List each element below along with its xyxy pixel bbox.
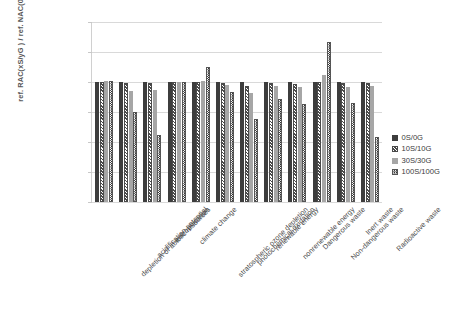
bar-10S-10G[interactable] bbox=[317, 82, 321, 202]
bar-100S-100G[interactable] bbox=[375, 137, 379, 202]
legend-swatch-icon bbox=[392, 146, 398, 152]
bar-10S-10G[interactable] bbox=[245, 86, 249, 202]
legend-item[interactable]: 100S/100G bbox=[392, 167, 440, 179]
bar-30S-30G[interactable] bbox=[370, 86, 374, 202]
bar-100S-100G[interactable] bbox=[157, 135, 161, 202]
bar-100S-100G[interactable] bbox=[109, 81, 113, 202]
bar-group bbox=[237, 22, 261, 202]
bar-0S-0G[interactable] bbox=[95, 82, 99, 202]
bar-30S-30G[interactable] bbox=[249, 93, 253, 202]
bar-30S-30G[interactable] bbox=[225, 85, 229, 202]
bar-0S-0G[interactable] bbox=[240, 82, 244, 202]
gridline bbox=[92, 202, 382, 203]
legend-label: 10S/10G bbox=[402, 145, 432, 153]
bar-group bbox=[165, 22, 189, 202]
bar-10S-10G[interactable] bbox=[221, 83, 225, 202]
bar-100S-100G[interactable] bbox=[327, 42, 331, 202]
bar-30S-30G[interactable] bbox=[129, 91, 133, 202]
bar-30S-30G[interactable] bbox=[322, 75, 326, 202]
bar-group bbox=[334, 22, 358, 202]
bar-0S-0G[interactable] bbox=[216, 82, 220, 202]
legend-label: 100S/100G bbox=[402, 168, 440, 176]
bar-10S-10G[interactable] bbox=[293, 84, 297, 202]
plot-area: 1,101,051,000,950,900,850,80 bbox=[92, 22, 382, 202]
legend-item[interactable]: 0S/0G bbox=[392, 132, 440, 144]
bar-0S-0G[interactable] bbox=[168, 82, 172, 202]
bar-30S-30G[interactable] bbox=[153, 90, 157, 202]
bar-30S-30G[interactable] bbox=[177, 82, 181, 202]
legend-item[interactable]: 10S/10G bbox=[392, 144, 440, 156]
bar-10S-10G[interactable] bbox=[196, 82, 200, 202]
bar-0S-0G[interactable] bbox=[119, 82, 123, 202]
bar-0S-0G[interactable] bbox=[337, 82, 341, 202]
bar-10S-10G[interactable] bbox=[341, 83, 345, 202]
bar-group bbox=[140, 22, 164, 202]
bar-group bbox=[213, 22, 237, 202]
bar-30S-30G[interactable] bbox=[346, 87, 350, 202]
bar-0S-0G[interactable] bbox=[264, 82, 268, 202]
bar-100S-100G[interactable] bbox=[133, 112, 137, 202]
bar-group bbox=[358, 22, 382, 202]
bar-10S-10G[interactable] bbox=[100, 82, 104, 202]
bar-100S-100G[interactable] bbox=[206, 67, 210, 202]
bar-10S-10G[interactable] bbox=[269, 83, 273, 202]
bar-100S-100G[interactable] bbox=[351, 103, 355, 202]
bar-30S-30G[interactable] bbox=[298, 87, 302, 202]
legend-label: 0S/0G bbox=[402, 134, 424, 142]
bar-group bbox=[310, 22, 334, 202]
chart-container: ref. RAC(xS/yG ) / ref. NAC(0S/0G) 1,101… bbox=[0, 0, 473, 318]
bar-0S-0G[interactable] bbox=[288, 82, 292, 202]
bar-group bbox=[285, 22, 309, 202]
legend-item[interactable]: 30S/30G bbox=[392, 155, 440, 167]
y-tick-mark bbox=[88, 202, 92, 203]
bar-100S-100G[interactable] bbox=[182, 82, 186, 202]
bar-100S-100G[interactable] bbox=[230, 92, 234, 202]
chart-legend: 0S/0G10S/10G30S/30G100S/100G bbox=[392, 132, 440, 178]
bar-group bbox=[116, 22, 140, 202]
bar-10S-10G[interactable] bbox=[366, 83, 370, 202]
bar-group bbox=[189, 22, 213, 202]
bar-100S-100G[interactable] bbox=[278, 99, 282, 202]
bar-30S-30G[interactable] bbox=[201, 81, 205, 202]
bar-10S-10G[interactable] bbox=[172, 82, 176, 202]
bar-0S-0G[interactable] bbox=[361, 82, 365, 202]
bar-0S-0G[interactable] bbox=[143, 82, 147, 202]
bar-100S-100G[interactable] bbox=[254, 119, 258, 202]
bar-10S-10G[interactable] bbox=[148, 83, 152, 202]
y-axis-title: ref. RAC(xS/yG ) / ref. NAC(0S/0G) bbox=[16, 0, 25, 131]
legend-swatch-icon bbox=[392, 158, 398, 164]
legend-swatch-icon bbox=[392, 169, 398, 175]
bar-0S-0G[interactable] bbox=[192, 82, 196, 202]
legend-swatch-icon bbox=[392, 135, 398, 141]
bar-group bbox=[261, 22, 285, 202]
bar-group bbox=[92, 22, 116, 202]
bar-10S-10G[interactable] bbox=[124, 83, 128, 202]
bar-30S-30G[interactable] bbox=[104, 81, 108, 202]
bar-0S-0G[interactable] bbox=[313, 82, 317, 202]
bar-100S-100G[interactable] bbox=[302, 104, 306, 202]
bar-30S-30G[interactable] bbox=[274, 86, 278, 202]
legend-label: 30S/30G bbox=[402, 157, 432, 165]
